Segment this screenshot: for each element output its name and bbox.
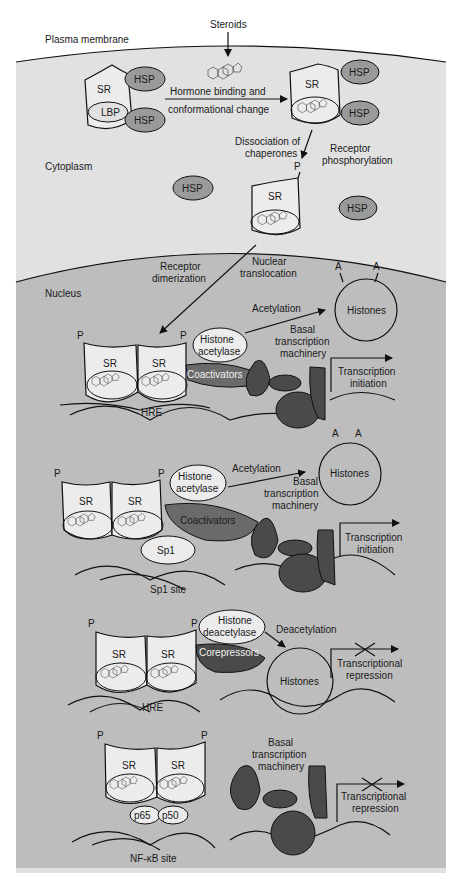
svg-text:transcription: transcription bbox=[264, 488, 318, 499]
svg-text:SR: SR bbox=[171, 760, 185, 771]
hormone-binding-label: Hormone binding and bbox=[170, 86, 266, 97]
lbp-label: LBP bbox=[101, 107, 120, 118]
svg-text:dimerization: dimerization bbox=[152, 273, 206, 284]
sr-label: SR bbox=[97, 84, 111, 95]
svg-text:SR: SR bbox=[152, 358, 166, 369]
svg-text:A: A bbox=[335, 261, 342, 272]
svg-text:Transcriptional: Transcriptional bbox=[337, 658, 402, 669]
svg-text:SR: SR bbox=[128, 496, 142, 507]
svg-text:P: P bbox=[97, 730, 104, 741]
plasma-membrane-label: Plasma membrane bbox=[45, 34, 129, 45]
svg-text:HSP: HSP bbox=[349, 67, 370, 78]
svg-text:P: P bbox=[180, 330, 187, 341]
svg-text:Sp1: Sp1 bbox=[157, 545, 175, 556]
svg-text:SR: SR bbox=[103, 358, 117, 369]
svg-text:HSP: HSP bbox=[347, 203, 368, 214]
svg-text:Histone: Histone bbox=[178, 471, 212, 482]
svg-text:acetylase: acetylase bbox=[198, 346, 241, 357]
svg-text:A: A bbox=[332, 428, 339, 439]
svg-text:machinery: machinery bbox=[258, 761, 304, 772]
svg-text:HSP: HSP bbox=[134, 74, 155, 85]
svg-text:initiation: initiation bbox=[357, 544, 394, 555]
receptor-dimerization-label: Receptor bbox=[160, 261, 201, 272]
svg-text:P: P bbox=[158, 468, 165, 479]
svg-text:Acetylation: Acetylation bbox=[232, 463, 281, 474]
conformational-change-label: conformational change bbox=[168, 104, 270, 115]
svg-text:A: A bbox=[355, 428, 362, 439]
svg-text:P: P bbox=[77, 330, 84, 341]
svg-text:SR: SR bbox=[161, 649, 175, 660]
svg-text:P: P bbox=[201, 730, 208, 741]
nfkb-site-label: NF-κB site bbox=[130, 853, 177, 864]
svg-text:Transcriptional: Transcriptional bbox=[341, 791, 406, 802]
svg-text:p50: p50 bbox=[162, 810, 179, 821]
svg-text:p65: p65 bbox=[134, 810, 151, 821]
hre-site-label-2: HRE bbox=[142, 702, 163, 713]
svg-text:P: P bbox=[54, 468, 61, 479]
svg-text:Histone: Histone bbox=[218, 615, 252, 626]
svg-text:SR: SR bbox=[112, 649, 126, 660]
svg-text:Histone: Histone bbox=[200, 334, 234, 345]
cytoplasm-label: Cytoplasm bbox=[45, 161, 92, 172]
svg-text:P: P bbox=[88, 618, 95, 629]
svg-text:Transcription: Transcription bbox=[345, 532, 402, 543]
nucleus-label: Nucleus bbox=[45, 288, 81, 299]
svg-text:Histones: Histones bbox=[330, 468, 369, 479]
svg-text:Histones: Histones bbox=[347, 305, 386, 316]
steroid-receptor-diagram: Plasma membrane Cytoplasm Nucleus Steroi… bbox=[0, 0, 463, 873]
svg-text:HSP: HSP bbox=[134, 115, 155, 126]
svg-text:transcription: transcription bbox=[252, 749, 306, 760]
svg-text:Histones: Histones bbox=[280, 676, 319, 687]
svg-text:Transcription: Transcription bbox=[338, 366, 395, 377]
chaperones-label: chaperones bbox=[245, 148, 297, 159]
sp1-site-label: Sp1 site bbox=[150, 584, 187, 595]
svg-text:SR: SR bbox=[268, 191, 282, 202]
steroids-label: Steroids bbox=[210, 19, 247, 30]
svg-text:machinery: machinery bbox=[272, 500, 318, 511]
hre-site-label: HRE bbox=[141, 407, 162, 418]
svg-text:initiation: initiation bbox=[350, 378, 387, 389]
svg-text:acetylase: acetylase bbox=[176, 483, 219, 494]
svg-text:transcription: transcription bbox=[275, 336, 329, 347]
svg-text:A: A bbox=[373, 261, 380, 272]
svg-text:translocation: translocation bbox=[240, 268, 297, 279]
svg-text:SR: SR bbox=[79, 496, 93, 507]
svg-text:repression: repression bbox=[352, 803, 399, 814]
svg-text:Deacetylation: Deacetylation bbox=[276, 624, 337, 635]
svg-text:Corepressors: Corepressors bbox=[199, 647, 259, 658]
svg-text:HSP: HSP bbox=[182, 183, 203, 194]
dissociation-label: Dissociation of bbox=[235, 136, 300, 147]
svg-text:P: P bbox=[191, 618, 198, 629]
svg-text:Basal: Basal bbox=[290, 324, 315, 335]
svg-text:phosphorylation: phosphorylation bbox=[322, 155, 393, 166]
svg-text:Basal: Basal bbox=[268, 737, 293, 748]
svg-text:Basal: Basal bbox=[293, 476, 318, 487]
svg-text:HSP: HSP bbox=[349, 108, 370, 119]
svg-text:SR: SR bbox=[122, 760, 136, 771]
svg-text:repression: repression bbox=[346, 670, 393, 681]
svg-text:Acetylation: Acetylation bbox=[252, 303, 301, 314]
svg-text:deacetylase: deacetylase bbox=[203, 627, 257, 638]
svg-text:P: P bbox=[294, 161, 301, 172]
receptor-phosphorylation-label: Receptor bbox=[330, 143, 371, 154]
svg-text:machinery: machinery bbox=[280, 348, 326, 359]
nuclear-translocation-label: Nuclear bbox=[252, 256, 287, 267]
svg-text:Coactivators: Coactivators bbox=[187, 369, 243, 380]
svg-text:SR: SR bbox=[305, 79, 319, 90]
svg-text:Coactivators: Coactivators bbox=[180, 515, 236, 526]
